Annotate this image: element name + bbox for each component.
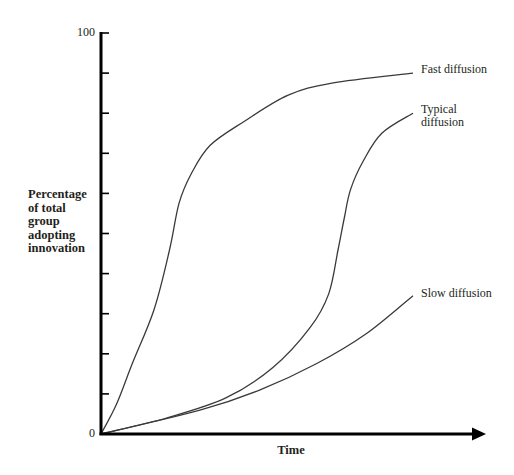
y-axis-title: Percentage of total group adopting innov… — [28, 188, 87, 256]
series-label-typical-diffusion: Typical diffusion — [421, 103, 464, 129]
x-axis-title: Time — [241, 443, 341, 458]
curve-slow-diffusion — [101, 296, 413, 434]
series-label-fast-diffusion: Fast diffusion — [421, 63, 487, 76]
series-label-text: Slow diffusion — [421, 287, 492, 300]
y-axis-title-line: of total — [28, 202, 87, 216]
y-axis-title-line: innovation — [28, 242, 87, 256]
y-axis-title-line: Percentage — [28, 188, 87, 202]
y-tick-label-100: 100 — [55, 26, 95, 38]
y-axis-title-line: adopting — [28, 229, 87, 243]
diffusion-curves — [101, 73, 413, 434]
series-label-text: diffusion — [421, 116, 464, 129]
y-tick-label-0: 0 — [55, 427, 95, 439]
x-axis-arrowhead-icon — [472, 428, 486, 441]
curve-typical-diffusion — [101, 113, 413, 434]
y-axis-title-line: group — [28, 215, 87, 229]
series-label-slow-diffusion: Slow diffusion — [421, 287, 492, 300]
series-label-text: Fast diffusion — [421, 63, 487, 76]
